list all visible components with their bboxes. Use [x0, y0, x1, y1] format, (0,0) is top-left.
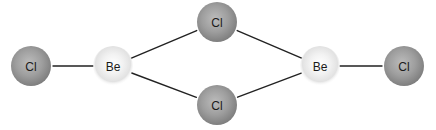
atom-label: Be: [106, 60, 121, 74]
molecule-diagram: ClBeClClBeCl: [0, 0, 436, 130]
atom-cl-right: Cl: [384, 46, 424, 86]
atom-be-left: Be: [93, 46, 133, 86]
atom-cl-left: Cl: [11, 46, 51, 86]
atom-cl-bottom: Cl: [197, 85, 237, 125]
atom-label: Cl: [211, 99, 222, 113]
bond-be-left-cl-top: [131, 31, 196, 59]
atom-label: Cl: [211, 16, 222, 30]
atom-label: Be: [313, 60, 328, 74]
bond-be-left-cl-bottom: [132, 73, 197, 97]
bond-cl-top-be-right: [237, 31, 301, 58]
atom-label: Cl: [25, 60, 36, 74]
atom-label: Cl: [398, 60, 409, 74]
bond-cl-bottom-be-right: [238, 73, 302, 97]
atom-cl-top: Cl: [197, 2, 237, 42]
atoms-layer: ClBeClClBeCl: [11, 2, 424, 125]
atom-be-right: Be: [300, 46, 340, 86]
